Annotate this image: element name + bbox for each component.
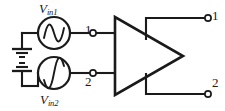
node-label-input-2: 2 [85,75,92,88]
circuit-diagram: Vin1 Vin2 1 2 1 2 [0,0,225,111]
ac-source-lower [38,57,70,89]
wire-output-1-path [146,18,208,39]
node-label-input-1: 1 [85,23,92,36]
terminal-node-output-1 [205,15,211,21]
wire-output-2-path [146,74,208,94]
circuit-schematic-svg [0,0,225,111]
output-wire-lower [146,74,208,94]
source-label-vin2: Vin2 [40,93,58,108]
node-label-output-1: 1 [212,9,219,22]
amplifier-triangle [115,17,183,95]
source-label-vin2-main: V [40,92,48,107]
source-label-vin1: Vin1 [39,2,57,17]
source-label-vin1-main: V [39,1,47,16]
source-label-vin2-sub: in2 [48,98,58,108]
terminal-node-output-2 [205,91,211,97]
ac-source-upper [38,17,70,49]
ground-symbol-lower [12,63,32,86]
output-wire-upper [146,18,208,39]
node-label-output-2: 2 [212,76,219,89]
source-label-vin1-sub: in1 [47,7,57,17]
ground-symbol-upper [12,33,32,57]
